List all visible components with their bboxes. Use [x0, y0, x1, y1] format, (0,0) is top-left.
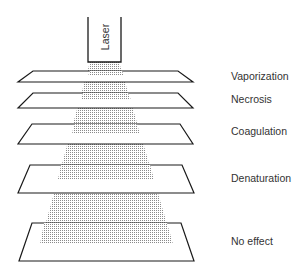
layer-label-vaporization: Vaporization — [231, 70, 289, 82]
layer-label-denaturation: Denaturation — [231, 172, 291, 184]
layer-label-necrosis: Necrosis — [231, 93, 272, 105]
laser-label: Laser — [99, 24, 111, 50]
laser-tissue-diagram — [0, 0, 303, 274]
laser-beam — [40, 62, 173, 244]
layer-label-coagulation: Coagulation — [231, 125, 287, 137]
layer-label-no-effect: No effect — [231, 235, 273, 247]
